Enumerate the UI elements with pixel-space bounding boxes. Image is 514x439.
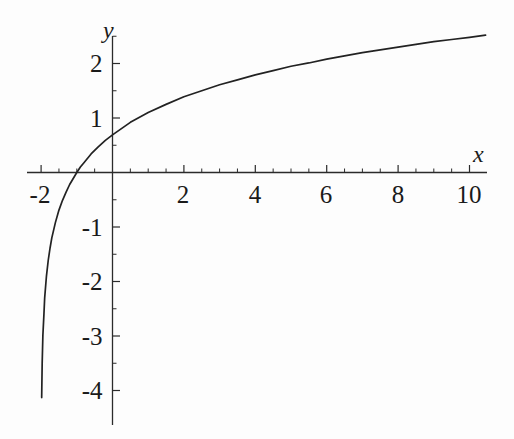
y-tick-label: -1	[82, 215, 103, 240]
x-axis-ticks	[41, 165, 469, 173]
y-tick-label: -2	[82, 269, 103, 294]
data-curve-ln-x-plus-2	[42, 35, 486, 397]
x-tick-label: 10	[457, 182, 482, 207]
x-tick-label: -2	[30, 182, 51, 207]
x-tick-label: 6	[320, 182, 333, 207]
y-tick-label: -3	[82, 324, 103, 349]
y-tick-label: 2	[90, 51, 103, 76]
x-tick-label: 4	[249, 182, 262, 207]
y-tick-label: 1	[90, 106, 103, 131]
x-tick-label: 8	[392, 182, 405, 207]
y-axis-ticks	[113, 36, 121, 390]
chart-figure: y x -2246810 21-1-2-3-4	[0, 0, 514, 439]
y-tick-label: -4	[82, 378, 103, 403]
plot-canvas	[0, 0, 514, 439]
x-tick-label: 2	[177, 182, 190, 207]
x-axis-label: x	[473, 142, 484, 166]
y-axis-label: y	[103, 18, 114, 42]
